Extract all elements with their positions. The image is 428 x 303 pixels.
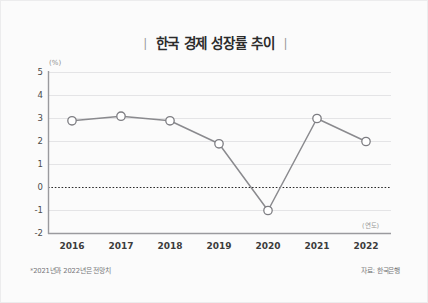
y-axis-tick-1: 1: [21, 160, 43, 169]
y-axis-unit-label: (%): [49, 59, 61, 67]
data-point-2022: [362, 137, 370, 145]
chart-figure: ❘한국 경제 성장률 추이❘: [0, 0, 428, 303]
x-axis-tick-2021: 2021: [293, 241, 341, 251]
data-point-2018: [166, 117, 174, 125]
data-point-2019: [215, 140, 223, 148]
x-axis-tick-2022: 2022: [342, 241, 390, 251]
data-point-2020: [264, 206, 272, 214]
y-axis-tick-neg1: -1: [21, 206, 43, 215]
y-axis-tick-2: 2: [21, 137, 43, 146]
y-axis-tick-0: 0: [21, 183, 43, 192]
growth-rate-line: [72, 116, 366, 210]
line-chart-svg: [1, 1, 428, 303]
x-axis-tick-2018: 2018: [146, 241, 194, 251]
x-axis-tick-2019: 2019: [195, 241, 243, 251]
data-point-2017: [117, 112, 125, 120]
x-axis-tick-2020: 2020: [244, 241, 292, 251]
y-axis-tick-neg2: -2: [21, 229, 43, 238]
data-point-2021: [313, 114, 321, 122]
footnote-text: *2021년과 2022년은 전망치: [30, 265, 111, 275]
data-point-2016: [68, 117, 76, 125]
y-axis-tick-3: 3: [21, 114, 43, 123]
x-axis-tick-2017: 2017: [97, 241, 145, 251]
y-axis-tick-5: 5: [21, 68, 43, 77]
y-axis-tick-4: 4: [21, 91, 43, 100]
x-axis-unit-label: (연도): [362, 220, 379, 230]
data-point-markers: [68, 112, 370, 215]
x-axis-tick-2016: 2016: [48, 241, 96, 251]
source-attribution: 자료: 한국은행: [361, 265, 400, 275]
plot-area: (%) (연도) 5 4 3 2 1 0 -1 -2 2016 2017 201…: [1, 1, 428, 303]
